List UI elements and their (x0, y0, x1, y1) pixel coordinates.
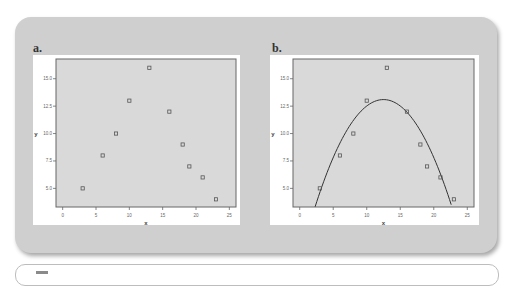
x-tick-label: 0 (298, 213, 301, 218)
y-tick-label: 15.0 (43, 76, 52, 81)
y-tick-label: 15.0 (280, 76, 289, 81)
y-tick-label: 7.5 (283, 158, 290, 163)
y-tick-label: 10.0 (280, 131, 289, 136)
x-tick-label: 15 (398, 213, 404, 218)
x-tick-label: 0 (61, 213, 64, 218)
y-tick-label: 7.5 (46, 158, 53, 163)
plot-area (293, 59, 474, 207)
x-tick-label: 10 (364, 213, 370, 218)
x-tick-label: 5 (332, 213, 335, 218)
y-tick-label: 12.5 (280, 104, 289, 109)
x-tick-label: 20 (431, 213, 437, 218)
panel-b-label: b. (272, 41, 282, 56)
y-tick-label: 10.0 (43, 131, 52, 136)
scatter-plot-b-canvas: 05101520255.07.510.012.515.0xy (270, 55, 479, 225)
caption-box (15, 264, 499, 286)
x-tick-label: 25 (465, 213, 471, 218)
x-tick-label: 25 (227, 213, 233, 218)
scatter-plot-b: 05101520255.07.510.012.515.0xy (270, 55, 479, 225)
panel-a-label: a. (33, 41, 42, 56)
x-axis-label: x (382, 220, 386, 225)
x-tick-label: 15 (160, 213, 166, 218)
y-tick-label: 5.0 (283, 186, 290, 191)
caption-marker (36, 271, 48, 274)
plot-area (56, 59, 236, 207)
x-tick-label: 20 (193, 213, 199, 218)
x-tick-label: 5 (95, 213, 98, 218)
y-tick-label: 5.0 (46, 186, 53, 191)
scatter-plot-a: 05101520255.07.510.012.515.0xy (33, 55, 240, 225)
scatter-plot-a-canvas: 05101520255.07.510.012.515.0xy (33, 55, 240, 225)
x-tick-label: 10 (127, 213, 133, 218)
y-axis-label: y (271, 131, 275, 137)
y-tick-label: 12.5 (43, 104, 52, 109)
y-axis-label: y (34, 131, 38, 137)
x-axis-label: x (144, 220, 148, 225)
